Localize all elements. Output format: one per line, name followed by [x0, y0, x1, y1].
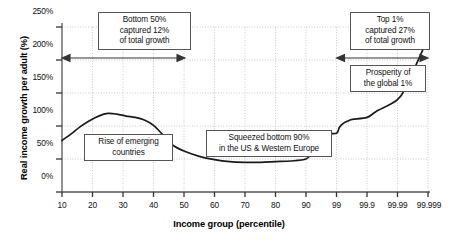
y-tick-label-0: 0%: [10, 171, 53, 181]
x-tick-label-40: 40: [140, 200, 168, 210]
x-tick-marks: [62, 192, 428, 197]
annotation-rise-emerging: Rise of emerging countries: [84, 134, 173, 161]
x-tick-label-99: 99: [323, 200, 351, 210]
y-tick-marks: [56, 27, 62, 192]
y-tick-label-50: 50%: [10, 138, 53, 148]
x-gridlines: [93, 27, 429, 192]
x-tick-label-30: 30: [109, 200, 137, 210]
annotation-prosperity: Prosperity of the global 1%: [350, 65, 426, 92]
y-axis-title: Real income growth per adult (%): [19, 18, 29, 198]
annotation-squeezed-bottom-90: Squeezed bottom 90% in the US & Western …: [206, 130, 332, 157]
x-tick-label-80: 80: [262, 200, 290, 210]
x-tick-label-99-9: 99.9: [351, 200, 383, 210]
x-tick-label-90: 90: [292, 200, 320, 210]
annotation-top-1: Top 1% captured 27% of total growth: [350, 12, 430, 50]
y-tick-label-250: 250%: [10, 6, 53, 16]
y-tick-label-200: 200%: [10, 39, 53, 49]
x-tick-label-99-999: 99.999: [409, 200, 449, 210]
x-tick-label-60: 60: [201, 200, 229, 210]
x-tick-label-50: 50: [170, 200, 198, 210]
elephant-curve-chart: 0% 50% 100% 150% 200% 250% 10 20 30 40 5…: [0, 0, 458, 240]
x-tick-label-10: 10: [48, 200, 76, 210]
x-axis-title: Income group (percentile): [0, 219, 458, 229]
annotation-bottom-50: Bottom 50% captured 12% of total growth: [98, 12, 191, 50]
x-tick-label-70: 70: [231, 200, 259, 210]
y-tick-label-150: 150%: [10, 72, 53, 82]
x-tick-label-20: 20: [79, 200, 107, 210]
y-tick-label-100: 100%: [10, 105, 53, 115]
